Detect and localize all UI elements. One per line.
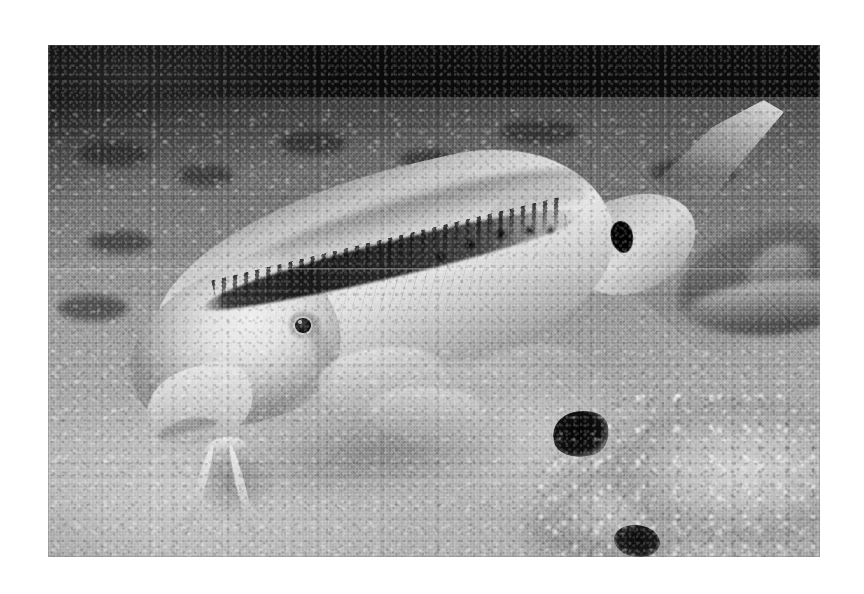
underwater-scene [48, 45, 820, 557]
page-canvas [0, 0, 864, 594]
goatfish-foraging-photograph [48, 45, 820, 557]
substrate-grain [48, 45, 820, 557]
